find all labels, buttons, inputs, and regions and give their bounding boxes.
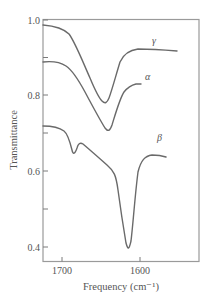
curve-label-beta: β <box>156 132 162 143</box>
curve-alpha <box>43 62 141 131</box>
curve-beta <box>43 126 166 248</box>
y-tick-label-0.8: 0.8 <box>28 90 41 101</box>
transmittance-chart: 1.0 0.8 0.6 0.4 1700 1600 Transmittance … <box>0 0 209 307</box>
curve-label-gamma: γ <box>152 35 157 46</box>
curve-label-alpha: α <box>145 71 151 82</box>
x-axis-title: Frequency (cm⁻¹) <box>83 281 159 293</box>
y-tick-label-0.4: 0.4 <box>28 242 41 253</box>
y-tick-label-0.6: 0.6 <box>28 166 41 177</box>
x-axis-ticks <box>62 257 140 262</box>
y-axis-title: Transmittance <box>8 110 19 170</box>
y-tick-label-1.0: 1.0 <box>28 15 41 26</box>
x-tick-label-1700: 1700 <box>52 265 72 276</box>
plot-frame <box>43 20 199 262</box>
x-tick-label-1600: 1600 <box>130 265 150 276</box>
y-axis-ticks <box>43 20 48 247</box>
